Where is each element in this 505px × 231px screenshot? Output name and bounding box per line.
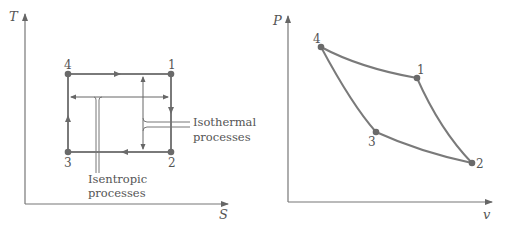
pv-diagram: P v 1 2 3 4 [272,13,492,222]
ts-point-2 [168,149,175,156]
carnot-cycle-diagrams: T S [0,0,505,231]
v-axis-label: v [483,207,491,222]
ts-point-3 [65,149,72,156]
ts-point-label-1: 1 [168,58,176,72]
ts-points [65,71,175,156]
p-axis-label: P [272,13,282,28]
ts-point-label-4: 4 [64,58,72,72]
arrow-left-icon [121,149,128,155]
isothermal-label-line2: processes [193,130,251,144]
ts-point-label-2: 2 [168,156,176,170]
arrow-right-icon [114,71,121,77]
pv-cycle [321,47,472,163]
ts-cycle [68,74,171,152]
pv-points [318,44,476,167]
isothermal-leader [143,118,190,131]
ts-point-label-3: 3 [64,156,72,170]
pv-point-label-3: 3 [368,135,376,149]
isentropic-label-line2: processes [88,186,146,200]
arrow-up-icon [65,115,71,122]
direction-arrows [65,71,174,155]
t-axis-label: T [9,9,19,24]
pv-point-2 [469,160,476,167]
pv-point-label-4: 4 [313,32,321,46]
isothermal-label-line1: Isothermal [193,115,256,129]
isentropic-label-line1: Isentropic [88,172,147,186]
pv-point-label-2: 2 [476,157,484,171]
pv-point-label-1: 1 [417,63,425,77]
arrow-down-icon [168,107,174,114]
isentropic-leader [94,97,102,173]
s-axis-label: S [219,207,228,222]
ts-diagram: T S [9,9,256,222]
